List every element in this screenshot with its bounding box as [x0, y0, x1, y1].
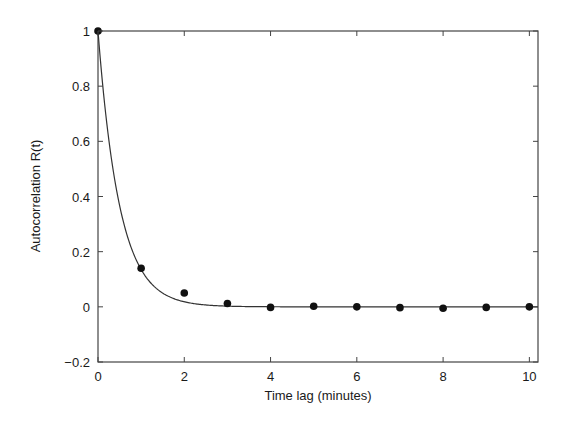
x-tick-label: 10: [522, 369, 536, 384]
data-points: [94, 27, 533, 312]
autocorrelation-chart: 0246810 −0.200.20.40.60.81 Time lag (min…: [0, 0, 566, 431]
data-point: [439, 304, 447, 312]
data-point: [180, 289, 188, 297]
y-tick-label: 1: [83, 24, 90, 39]
x-tick-label: 8: [439, 369, 446, 384]
exponential-fit-line: [98, 31, 538, 307]
data-point: [224, 300, 232, 308]
x-tick-label: 6: [353, 369, 360, 384]
x-axis: 0246810: [94, 31, 536, 384]
x-tick-label: 4: [267, 369, 274, 384]
y-axis-label: Autocorrelation R(t): [28, 140, 43, 253]
data-point: [482, 304, 490, 312]
data-point: [353, 303, 361, 311]
data-point: [526, 303, 534, 311]
data-point: [310, 302, 318, 310]
x-axis-label: Time lag (minutes): [264, 388, 371, 403]
y-tick-label: 0.4: [72, 190, 90, 205]
x-tick-label: 0: [94, 369, 101, 384]
y-tick-label: −0.2: [64, 355, 90, 370]
y-tick-label: 0.8: [72, 79, 90, 94]
y-tick-label: 0.6: [72, 134, 90, 149]
plot-box: [98, 31, 538, 362]
data-point: [267, 304, 275, 312]
fit-curve: [98, 31, 538, 307]
y-tick-label: 0: [83, 300, 90, 315]
data-point: [137, 264, 145, 272]
y-axis: −0.200.20.40.60.81: [64, 24, 538, 370]
data-point: [396, 304, 404, 312]
plot-frame: [98, 31, 538, 362]
x-tick-label: 2: [181, 369, 188, 384]
y-tick-label: 0.2: [72, 245, 90, 260]
